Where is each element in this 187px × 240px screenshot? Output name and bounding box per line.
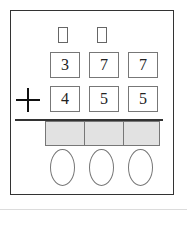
- bottom-digit-hundreds: 4: [50, 86, 80, 112]
- top-digit-ones: 7: [128, 52, 158, 78]
- oval-tens[interactable]: [89, 149, 114, 186]
- oval-ones[interactable]: [128, 149, 153, 186]
- top-digit-hundreds: 3: [50, 52, 80, 78]
- top-digit-tens: 7: [89, 52, 119, 78]
- answer-box-ones[interactable]: [123, 121, 160, 146]
- answer-box-hundreds[interactable]: [45, 121, 85, 146]
- carry-box-1[interactable]: [58, 27, 68, 43]
- plus-icon: [16, 88, 40, 112]
- carry-box-2[interactable]: [97, 27, 107, 43]
- oval-hundreds[interactable]: [50, 149, 75, 186]
- bottom-digit-tens: 5: [89, 86, 119, 112]
- bottom-digit-ones: 5: [128, 86, 158, 112]
- divider: [0, 209, 187, 210]
- answer-box-tens[interactable]: [84, 121, 124, 146]
